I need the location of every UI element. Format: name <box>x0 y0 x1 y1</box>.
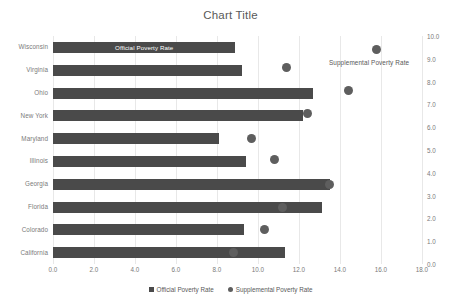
scatter-point <box>270 155 279 164</box>
category-label: California <box>20 249 48 256</box>
secondary-y-tick-label: 0.0 <box>427 261 436 268</box>
x-tick-label: 4.0 <box>131 266 140 273</box>
x-tick-label: 10.0 <box>252 266 264 273</box>
x-tick-label: 16.0 <box>375 266 387 273</box>
bar <box>53 224 244 235</box>
category-label: Illinois <box>30 157 48 164</box>
legend-square-icon <box>149 287 154 292</box>
category-label: Colorado <box>22 226 48 233</box>
secondary-y-tick-label: 5.0 <box>427 147 436 154</box>
x-tick-label: 8.0 <box>213 266 222 273</box>
gridline <box>299 36 300 264</box>
x-tick-label: 6.0 <box>172 266 181 273</box>
secondary-y-tick-label: 7.0 <box>427 101 436 108</box>
gridline <box>422 36 423 264</box>
gridline <box>340 36 341 264</box>
bar <box>53 65 242 76</box>
bar <box>53 133 219 144</box>
scatter-point <box>325 180 334 189</box>
category-label: Maryland <box>21 135 48 142</box>
secondary-y-tick-label: 9.0 <box>427 55 436 62</box>
chart-legend: Official Poverty Rate Supplemental Pover… <box>0 286 461 293</box>
gridline <box>258 36 259 264</box>
scatter-point <box>344 86 353 95</box>
secondary-y-tick-label: 10.0 <box>427 33 439 40</box>
legend-label: Supplemental Poverty Rate <box>236 286 313 293</box>
gridline <box>381 36 382 264</box>
scatter-series-label: Supplemental Poverty Rate <box>329 59 409 66</box>
secondary-y-tick-label: 2.0 <box>427 215 436 222</box>
scatter-point <box>278 203 287 212</box>
category-label: Ohio <box>34 89 48 96</box>
secondary-y-tick-label: 6.0 <box>427 124 436 131</box>
secondary-y-tick-label: 1.0 <box>427 238 436 245</box>
legend-label: Official Poverty Rate <box>157 286 214 293</box>
bar <box>53 179 330 190</box>
scatter-point <box>303 109 312 118</box>
category-label: Georgia <box>25 180 48 187</box>
chart-container: Chart Title Official Poverty Rate Supple… <box>0 0 461 306</box>
plot-area: Official Poverty Rate Supplemental Pover… <box>53 36 422 264</box>
bar-data-label: Official Poverty Rate <box>53 42 235 53</box>
chart-title: Chart Title <box>0 9 461 21</box>
bar <box>53 88 313 99</box>
secondary-y-tick-label: 8.0 <box>427 78 436 85</box>
secondary-y-tick-label: 4.0 <box>427 169 436 176</box>
bar <box>53 156 246 167</box>
x-tick-label: 12.0 <box>293 266 305 273</box>
category-label: Virginia <box>26 66 48 73</box>
scatter-point <box>247 134 256 143</box>
category-label: Florida <box>28 203 48 210</box>
legend-dot-icon <box>228 287 233 292</box>
legend-item-supplemental-poverty-rate: Supplemental Poverty Rate <box>228 286 313 293</box>
legend-item-official-poverty-rate: Official Poverty Rate <box>149 286 214 293</box>
x-tick-label: 0.0 <box>49 266 58 273</box>
x-tick-label: 14.0 <box>334 266 346 273</box>
x-tick-label: 2.0 <box>90 266 99 273</box>
category-label: Wisconsin <box>18 43 48 50</box>
bar <box>53 247 285 258</box>
category-label: New York <box>21 112 48 119</box>
scatter-point <box>260 225 269 234</box>
bar <box>53 110 303 121</box>
scatter-point <box>282 63 291 72</box>
secondary-y-tick-label: 3.0 <box>427 192 436 199</box>
scatter-point <box>229 248 238 257</box>
